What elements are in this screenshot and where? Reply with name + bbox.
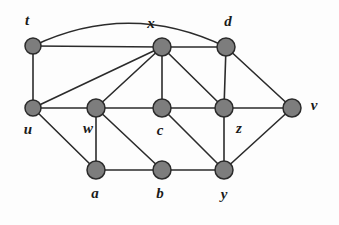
graph-figure: txduwczvaby — [0, 0, 339, 225]
graph-canvas: txduwczvaby — [0, 0, 339, 225]
graph-node-a[interactable] — [87, 161, 105, 179]
graph-node-d[interactable] — [217, 38, 235, 56]
graph-node-label-u: u — [24, 121, 32, 137]
graph-node-label-c: c — [157, 122, 164, 138]
graph-node-label-y: y — [219, 186, 228, 202]
graph-edge-t-d — [33, 23, 226, 47]
graph-node-label-d: d — [224, 13, 232, 29]
graph-node-label-b: b — [156, 185, 164, 201]
graph-edge-c-y — [162, 108, 224, 170]
graph-node-label-w: w — [83, 120, 94, 136]
graph-edge-w-x — [96, 47, 162, 108]
graph-node-c[interactable] — [153, 99, 171, 117]
graph-node-label-t: t — [25, 12, 30, 28]
graph-node-y[interactable] — [215, 161, 233, 179]
graph-edge-t-x — [33, 46, 162, 47]
graph-node-label-v: v — [311, 97, 318, 113]
graph-node-label-a: a — [91, 185, 99, 201]
graph-node-b[interactable] — [153, 161, 171, 179]
graph-edge-u-a — [33, 108, 96, 170]
graph-node-t[interactable] — [25, 38, 41, 54]
graph-node-label-x: x — [146, 15, 155, 31]
graph-node-w[interactable] — [87, 99, 105, 117]
graph-edge-d-v — [226, 47, 292, 108]
graph-edge-w-b — [96, 108, 162, 170]
graph-node-z[interactable] — [215, 99, 233, 117]
graph-node-v[interactable] — [283, 99, 301, 117]
graph-node-x[interactable] — [153, 38, 171, 56]
graph-edge-y-v — [224, 108, 292, 170]
graph-edge-x-z — [162, 47, 224, 108]
graph-node-u[interactable] — [25, 100, 41, 116]
graph-node-label-z: z — [235, 120, 242, 136]
